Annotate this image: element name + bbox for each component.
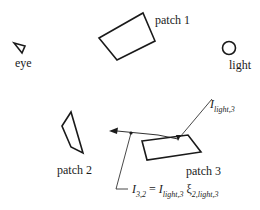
equation-factor-subscript: 2,light,3 [192,190,219,199]
light-icon [223,42,236,55]
equation-rhs-subscript: light,3 [163,190,184,199]
arrowhead-icon [109,128,118,135]
reflection-point-icon [176,135,181,141]
eye-icon [14,43,25,53]
equation-leader-line [116,133,131,189]
equation-label: I3,2 = Ilight,3 ξ2,light,3 [132,183,218,199]
equation-equals: = [149,182,156,196]
eye-label: eye [15,57,32,69]
patch-1-shape [99,13,155,60]
incoming-subscript: light,3 [214,105,235,114]
incoming-intensity-label: Ilight,3 [210,98,235,114]
patch-2-shape [62,112,83,153]
radiosity-diagram: eye patch 1 light patch 2 patch 3 Ilight… [0,0,260,210]
equation-lhs-subscript: 3,2 [136,190,146,199]
incoming-leader-line [180,99,212,137]
patch-3-label: patch 3 [186,165,221,177]
patch-3-shape [142,135,201,160]
patch-2-label: patch 2 [57,164,92,176]
patch-1-label: patch 1 [155,14,190,26]
light-label: light [229,59,251,71]
